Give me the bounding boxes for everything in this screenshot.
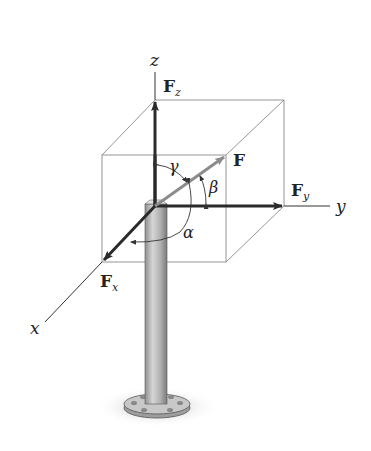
beta-arc [200, 176, 206, 204]
force-components-diagram: z y x Fz F Fy Fx γ β α [0, 0, 371, 451]
fx-label: Fx [100, 271, 119, 294]
fy-label: Fy [291, 180, 310, 203]
x-axis-label: x [30, 318, 40, 338]
gamma-label: γ [169, 157, 179, 176]
post [124, 200, 190, 418]
x-axis-line [45, 262, 102, 322]
beta-label: β [208, 178, 218, 197]
alpha-label: α [183, 223, 194, 242]
y-axis-label: y [335, 196, 346, 216]
f-label: F [233, 150, 245, 170]
axes [45, 72, 330, 322]
fz-label: Fz [163, 76, 181, 99]
z-axis-label: z [149, 50, 160, 70]
